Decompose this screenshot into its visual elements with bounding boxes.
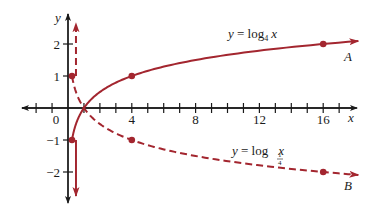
y-tick-label: −1: [46, 133, 60, 148]
curve-a-equation: y = log4x: [226, 26, 277, 43]
curve-b-label: B: [344, 178, 352, 193]
log-function-graph: 0481216 x 21−1−2 y y = log4x A y = logx …: [0, 0, 376, 213]
data-point: [69, 73, 76, 80]
data-point: [129, 137, 136, 144]
eq-a-eq: = log: [234, 26, 265, 41]
data-point: [320, 41, 327, 48]
y-tick-label: 2: [54, 37, 61, 52]
y-axis: 21−1−2 y: [46, 10, 73, 203]
x-tick-label: 0: [53, 112, 60, 127]
eq-a-base: 4: [264, 34, 268, 43]
curve-a-points: [69, 41, 327, 144]
y-axis-label: y: [53, 10, 61, 25]
data-point: [320, 169, 327, 176]
curve-b-equation: y = logx: [230, 143, 284, 158]
eq-b-eq: = log: [238, 143, 269, 158]
data-point: [129, 73, 136, 80]
x-tick-label: 12: [253, 112, 266, 127]
eq-a-x: x: [270, 26, 277, 41]
curve-b-log-one-quarter: [72, 76, 358, 175]
curve-a-log4: [72, 41, 358, 140]
eq-b-base-numerator: 1: [278, 151, 282, 159]
y-tick-label: −2: [46, 165, 60, 180]
x-tick-label: 4: [129, 112, 136, 127]
x-tick-label: 16: [317, 112, 331, 127]
eq-b-base-denominator: 4: [278, 159, 282, 167]
data-point: [69, 137, 76, 144]
x-tick-label: 8: [192, 112, 199, 127]
curve-a-label: A: [343, 49, 352, 64]
y-tick-label: 1: [54, 69, 61, 84]
x-axis-label: x: [347, 110, 354, 125]
x-axis: 0481216 x: [22, 103, 357, 127]
